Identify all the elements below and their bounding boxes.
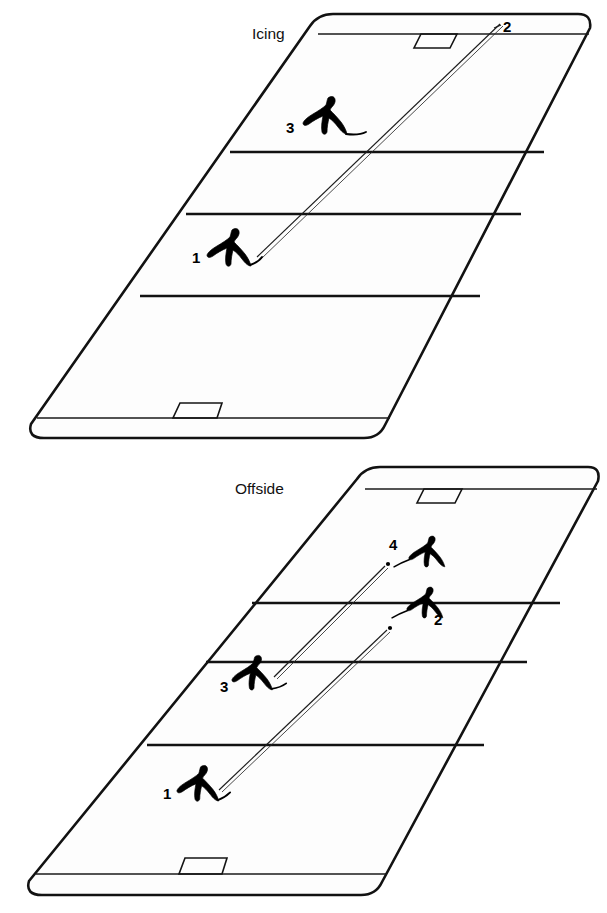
rink-outline-icing bbox=[30, 14, 590, 438]
puck-dot-offside-a bbox=[386, 562, 390, 566]
rink-outline-offside bbox=[28, 467, 598, 895]
diagram-offside: 4 2 3 1 Offside bbox=[28, 467, 598, 895]
hockey-rules-figure: 3 1 2 Icing bbox=[0, 0, 607, 913]
player-number-3-offside: 3 bbox=[220, 678, 228, 695]
player-number-4-offside: 4 bbox=[389, 536, 398, 553]
player-number-3-icing: 3 bbox=[286, 119, 294, 136]
player-number-2-offside: 2 bbox=[434, 611, 442, 628]
diagram-label-icing: Icing bbox=[252, 25, 285, 42]
player-number-1-icing: 1 bbox=[192, 249, 200, 266]
diagram-icing: 3 1 2 Icing bbox=[30, 14, 590, 438]
puck-dot-offside-b bbox=[388, 626, 392, 630]
player-number-1-offside: 1 bbox=[163, 785, 171, 802]
diagram-label-offside: Offside bbox=[235, 480, 284, 497]
marker-number-2-icing: 2 bbox=[503, 18, 511, 35]
rink-diagrams-svg: 3 1 2 Icing bbox=[0, 0, 607, 913]
